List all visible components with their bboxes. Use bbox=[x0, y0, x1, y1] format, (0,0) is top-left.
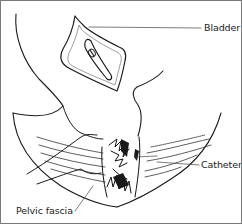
label-bladder: Bladder bbox=[204, 23, 240, 33]
pelvic-fascia-leader-line bbox=[75, 186, 93, 211]
anatomical-drawing bbox=[1, 1, 241, 223]
catheter-tip-mark bbox=[90, 50, 94, 56]
label-catheter: Catheter bbox=[201, 160, 242, 170]
catheter-shaft bbox=[135, 156, 157, 157]
central-upper-outline bbox=[63, 106, 103, 139]
right-contour-upper bbox=[133, 71, 163, 136]
bladder-leader-line bbox=[89, 27, 201, 28]
diagram-frame: Bladder Catheter Pelvic fascia bbox=[0, 0, 242, 224]
left-body-contour bbox=[13, 14, 63, 116]
label-pelvic-fascia: Pelvic fascia bbox=[16, 206, 73, 216]
